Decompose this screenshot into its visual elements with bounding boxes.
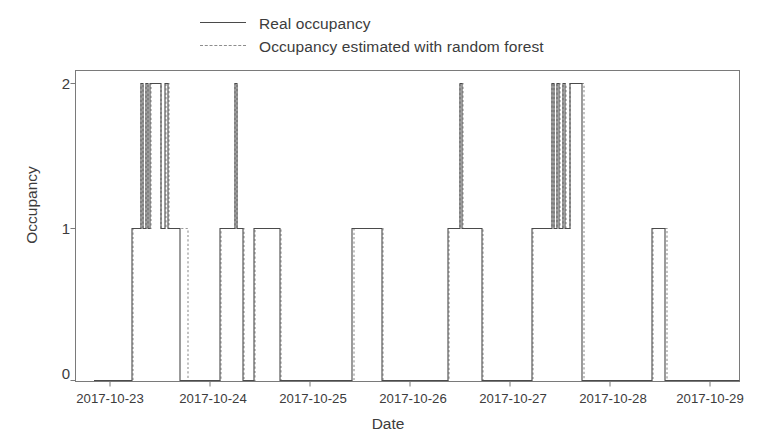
series-line-real-occupancy (94, 84, 740, 381)
plot-area (0, 0, 776, 445)
series-line-estimated-occupancy (94, 84, 740, 381)
occupancy-step-chart: Real occupancy Occupancy estimated with … (0, 0, 776, 445)
axes-frame (76, 71, 740, 382)
